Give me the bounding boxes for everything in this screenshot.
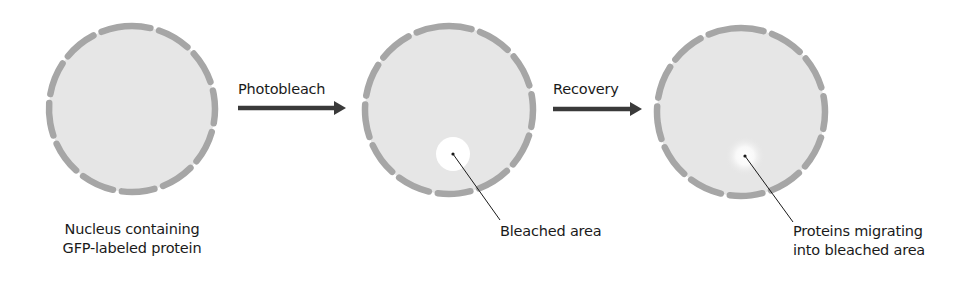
nucleus-recovery — [647, 18, 834, 222]
migrating-proteins-callout: Proteins migrating into bleached area — [793, 222, 925, 260]
photobleach-label: Photobleach — [238, 80, 325, 99]
initial-caption: Nucleus containing GFP-labeled protein — [52, 220, 212, 258]
recovery-arrow — [553, 102, 642, 116]
caption-line: GFP-labeled protein — [52, 239, 212, 258]
recovery-label: Recovery — [553, 80, 619, 99]
bleached-area-callout: Bleached area — [500, 222, 601, 241]
caption-line: Nucleus containing — [52, 220, 212, 239]
nucleus-initial — [36, 13, 228, 205]
callout-line: into bleached area — [793, 241, 925, 260]
nucleus-photobleached — [355, 16, 542, 220]
photobleach-arrow — [238, 101, 346, 115]
callout-line: Proteins migrating — [793, 222, 925, 241]
